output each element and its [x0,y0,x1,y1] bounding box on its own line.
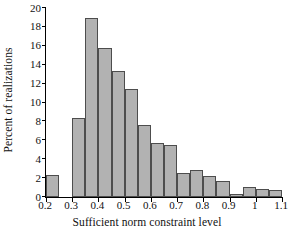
histogram-bar [72,118,85,197]
y-axis-tick [42,45,46,46]
y-axis-tick [42,83,46,84]
histogram-figure: Percent of realizations 0246810121416182… [0,0,294,235]
histogram-bar [151,143,164,197]
histogram-bar [125,89,138,197]
y-axis-tick-label: 14 [19,59,41,70]
x-axis-tick-label: 1.1 [274,200,288,211]
x-axis-tick-label: 0.2 [38,200,52,211]
y-axis-tick [42,120,46,121]
y-axis-tick [42,158,46,159]
y-axis-tick-label: 12 [19,78,41,89]
plot-area [45,8,282,198]
histogram-bar [230,194,243,197]
y-axis-tick [42,139,46,140]
histogram-bar [164,145,177,197]
x-axis-tick-label: 0.9 [222,200,236,211]
x-axis-tick-label: 1 [252,200,258,211]
histogram-bar [98,48,111,197]
x-axis-tick-label: 0.3 [64,200,78,211]
x-axis-tick-label: 0.7 [169,200,183,211]
y-axis-tick [42,102,46,103]
y-axis-tick-label: 20 [19,3,41,14]
y-axis-title-text: Percent of realizations [2,47,14,152]
y-axis-title: Percent of realizations [0,0,16,200]
histogram-bar [138,125,151,197]
x-axis-tick-label: 0.4 [91,200,105,211]
y-axis-tick-label: 8 [19,116,41,127]
histogram-bar [85,18,98,197]
x-axis-tick-label: 0.5 [117,200,131,211]
y-axis-tick-label: 18 [19,21,41,32]
y-axis-tick-label: 4 [19,154,41,165]
histogram-bar [269,190,282,197]
y-axis-tick-label: 2 [19,173,41,184]
histogram-bar [203,176,216,197]
y-axis-tick [42,64,46,65]
histogram-bar [190,170,203,197]
y-axis-tick-label: 16 [19,40,41,51]
y-axis-tick-label: 10 [19,97,41,108]
y-axis-tick-label: 6 [19,135,41,146]
histogram-bar [112,71,125,197]
histogram-bar [256,189,269,198]
x-axis-title: Sufficient norm constraint level [0,216,294,228]
y-axis-tick [42,7,46,8]
histogram-bar [243,187,256,197]
x-axis-tick-label: 0.6 [143,200,157,211]
histogram-bar [177,173,190,197]
x-axis-tick-label: 0.8 [195,200,209,211]
histogram-bar [46,175,59,197]
y-axis-tick [42,177,46,178]
x-axis-tick-labels: 0.20.30.40.50.60.70.80.911.1 [45,200,281,216]
y-axis-tick [42,26,46,27]
histogram-bar [216,181,229,197]
